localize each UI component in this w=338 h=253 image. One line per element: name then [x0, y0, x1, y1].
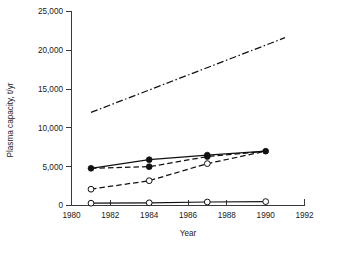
data-point-marker [204, 199, 210, 205]
x-tick-labels: 1980 1982 1984 1986 1988 1990 1992 [62, 211, 314, 220]
data-point-marker [146, 200, 152, 206]
plasma-capacity-line-chart: 0 5,000 10,000 15,000 20,000 25,000 1980… [0, 0, 338, 253]
y-axis-title: Plasma capacity, t/yr [6, 82, 15, 157]
x-tick-label-1982: 1982 [101, 211, 120, 220]
x-tick-label-1992: 1992 [295, 211, 314, 220]
y-tick-labels: 0 5,000 10,000 15,000 20,000 25,000 [38, 7, 63, 210]
data-point-marker [204, 161, 210, 167]
series-dashed-filled [91, 151, 266, 169]
data-point-marker [146, 157, 152, 163]
x-tick-label-1988: 1988 [218, 211, 237, 220]
chart-canvas: 0 5,000 10,000 15,000 20,000 25,000 1980… [0, 0, 338, 253]
y-tick-label-20000: 20,000 [38, 46, 63, 55]
x-tick-label-1990: 1990 [257, 211, 276, 220]
data-point-marker [263, 199, 269, 205]
y-tick-label-0: 0 [58, 201, 63, 210]
y-tick-label-25000: 25,000 [38, 7, 63, 16]
series-line-solid-open-baseline [91, 202, 266, 204]
y-tick-marks [66, 12, 72, 206]
data-point-marker [146, 164, 152, 170]
series-dash-dot-upper [91, 38, 285, 113]
y-tick-label-5000: 5,000 [43, 163, 64, 172]
series-solid-filled [88, 148, 269, 171]
data-point-marker [204, 154, 210, 160]
data-point-marker [146, 178, 152, 184]
x-tick-label-1984: 1984 [140, 211, 159, 220]
series-solid-open-baseline [88, 199, 269, 206]
y-tick-label-10000: 10,000 [38, 124, 63, 133]
y-tick-label-15000: 15,000 [38, 85, 63, 94]
series-line-dash-dot-upper [91, 38, 285, 113]
x-axis-title: Year [180, 229, 197, 238]
data-point-marker [88, 200, 94, 206]
x-tick-label-1986: 1986 [179, 211, 198, 220]
data-point-marker [88, 186, 94, 192]
series-line-dashed-filled [91, 151, 266, 168]
x-tick-label-1980: 1980 [62, 211, 81, 220]
